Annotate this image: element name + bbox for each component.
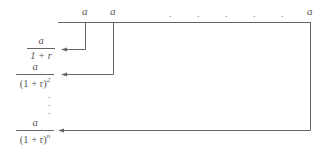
- pvn-denominator: (1 + r)n: [12, 131, 58, 145]
- arrow-period-2: [63, 22, 114, 75]
- arrow-period-n: [60, 22, 311, 131]
- payment-label-1: a: [82, 6, 88, 17]
- ellipsis-dot: .: [253, 8, 256, 19]
- pv1-numerator: a: [24, 36, 58, 48]
- ellipsis-dot: .: [197, 8, 200, 19]
- arrow-period-1: [63, 22, 86, 50]
- ellipsis-dot: .: [281, 8, 284, 19]
- present-value-n: a (1 + r)n: [12, 118, 58, 145]
- ellipsis-dot: .: [225, 8, 228, 19]
- present-value-2: a (1 + r)2: [12, 62, 58, 89]
- ellipsis-dot: .: [169, 8, 172, 19]
- pv2-denominator: (1 + r)2: [12, 75, 58, 89]
- pv2-numerator: a: [12, 62, 58, 74]
- pvn-numerator: a: [12, 118, 58, 130]
- present-value-1: a 1 + r: [24, 36, 58, 61]
- payment-label-n: a: [307, 6, 313, 17]
- vertical-ellipsis-dot: .: [48, 106, 51, 116]
- pv1-denominator: 1 + r: [24, 49, 58, 62]
- payment-label-2: a: [110, 6, 116, 17]
